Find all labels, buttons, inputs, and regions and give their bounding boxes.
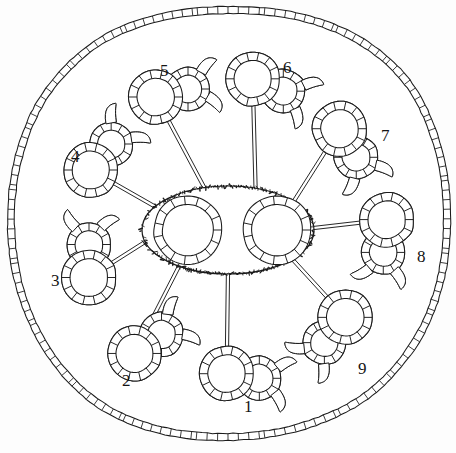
central-rim-stipple [152,254,154,255]
ring-inner-wall [368,201,405,239]
central-rim-stipple [274,191,275,192]
central-rim-stipple [215,272,216,273]
central-rim-stipple [160,260,163,261]
ring-inner-wall [208,355,245,393]
satellite-ring-large-7 [312,101,366,156]
central-rim-stipple [269,268,270,269]
central-rim-stipple [238,185,239,187]
satellite-label-3: 3 [51,272,60,289]
ring-inner-wall [234,60,271,97]
ring-inner-wall [252,205,303,256]
ring-inner-wall [162,205,213,256]
satellite-ring-large-6 [226,52,279,106]
central-rim-stipple [182,266,185,267]
central-rim-stipple [211,186,212,187]
central-rim-stipple [266,269,267,270]
central-rim-stipple [249,272,250,275]
satellite-ring-large-3 [62,250,116,305]
satellite-label-4: 4 [71,148,80,165]
satellite-ring-large-2 [108,326,161,381]
central-rim-stipple [193,269,194,271]
central-rim-stipple [229,274,230,275]
ring-inner-wall [326,299,364,336]
central-rim-stipple [215,186,216,187]
satellite-label-1: 1 [244,398,253,415]
central-rim-stipple [218,185,219,189]
central-rim-stipple [311,235,313,236]
central-rim-stipple [271,267,272,269]
central-rim-stipple [147,214,148,215]
central-rim-stipple [256,271,257,272]
central-ring-left [154,196,222,264]
central-rim-stipple [177,266,180,267]
satellite-label-5: 5 [160,62,169,79]
central-ring-right [243,196,310,265]
ring-inner-wall [116,334,153,372]
central-rim-stipple [193,188,194,189]
central-rim-stipple [240,186,241,188]
central-rim-stipple [204,272,206,273]
satellite-ring-large-5 [128,70,182,124]
satellite-ring-large-1 [199,346,253,400]
satellite-label-9: 9 [358,360,367,377]
anatomy-diagram-svg [0,0,456,453]
satellite-ring-large-8 [360,192,414,247]
central-rim-stipple [219,272,220,273]
central-rim-stipple [201,187,202,188]
satellite-label-7: 7 [381,127,390,144]
satellite-label-8: 8 [417,248,426,265]
epidermis-cell-wall [259,8,260,15]
central-rim-stipple [199,272,202,273]
ring-inner-wall [137,78,174,116]
satellite-ring-large-9 [318,290,372,344]
satellite-label-2: 2 [122,372,131,389]
ring-inner-wall [321,110,358,148]
figure-canvas-container: 123456789 [0,0,456,453]
central-rim-stipple [275,192,277,193]
epidermis-cell-wall [248,433,249,440]
ring-inner-wall [70,259,107,297]
satellite-label-6: 6 [283,59,292,76]
central-rim-stipple [222,185,223,188]
central-rim-stipple [234,185,235,186]
